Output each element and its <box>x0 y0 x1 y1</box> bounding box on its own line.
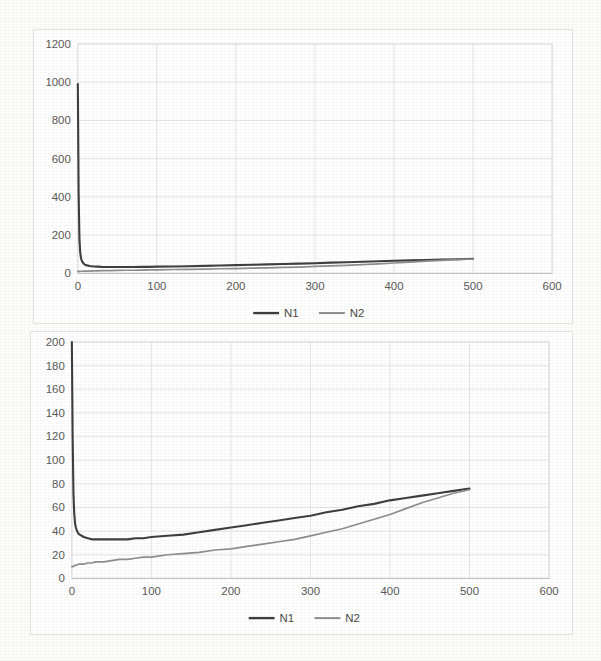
y-tick-label: 800 <box>52 114 71 126</box>
chart-bottom-svg: 0204060801001201401601802000100200300400… <box>31 332 572 634</box>
y-tick-label: 100 <box>46 454 65 466</box>
y-tick-label: 0 <box>64 267 70 279</box>
y-tick-label: 400 <box>52 191 71 203</box>
x-tick-label: 300 <box>305 280 324 292</box>
y-tick-label: 40 <box>52 525 65 537</box>
x-tick-label: 100 <box>142 585 161 597</box>
y-tick-label: 180 <box>46 360 65 372</box>
y-tick-label: 80 <box>52 478 65 490</box>
chart-bottom-plot-area: 0204060801001201401601802000100200300400… <box>31 332 572 634</box>
legend-label-n2[interactable]: N2 <box>350 307 365 319</box>
legend-label-n2[interactable]: N2 <box>345 612 360 624</box>
x-tick-label: 200 <box>226 280 245 292</box>
chart-top-plot-area: 0200400600800100012000100200300400500600… <box>34 30 572 323</box>
legend-label-n1[interactable]: N1 <box>284 307 299 319</box>
y-tick-label: 200 <box>52 229 71 241</box>
x-tick-label: 500 <box>460 585 479 597</box>
x-tick-label: 300 <box>301 585 320 597</box>
chart-top-svg: 0200400600800100012000100200300400500600… <box>34 30 572 323</box>
x-tick-label: 400 <box>384 280 403 292</box>
y-tick-label: 1200 <box>45 38 70 50</box>
x-tick-label: 400 <box>380 585 399 597</box>
y-tick-label: 160 <box>46 383 65 395</box>
y-tick-label: 200 <box>46 336 65 348</box>
y-tick-label: 0 <box>58 572 64 584</box>
document-page: 0200400600800100012000100200300400500600… <box>0 0 601 661</box>
legend-label-n1[interactable]: N1 <box>280 612 295 624</box>
y-tick-label: 1000 <box>45 76 70 88</box>
x-tick-label: 200 <box>221 585 240 597</box>
chart-bottom-container: 0204060801001201401601802000100200300400… <box>30 331 573 635</box>
y-tick-label: 120 <box>46 430 65 442</box>
series-line-n1 <box>72 342 470 539</box>
x-tick-label: 100 <box>147 280 166 292</box>
y-tick-label: 600 <box>52 153 71 165</box>
series-line-n1 <box>78 84 473 267</box>
x-tick-label: 0 <box>75 280 81 292</box>
y-tick-label: 20 <box>52 549 65 561</box>
x-tick-label: 600 <box>540 585 559 597</box>
x-tick-label: 0 <box>69 585 75 597</box>
y-tick-label: 60 <box>52 501 65 513</box>
y-tick-label: 140 <box>46 407 65 419</box>
x-tick-label: 500 <box>463 280 482 292</box>
x-tick-label: 600 <box>543 280 562 292</box>
chart-top-container: 0200400600800100012000100200300400500600… <box>33 29 573 324</box>
